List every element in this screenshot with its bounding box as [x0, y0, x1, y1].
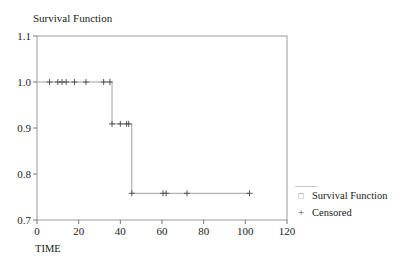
square-marker-icon: □ — [296, 191, 306, 201]
survival-plot: 0.70.80.91.01.1020406080100120 — [0, 0, 401, 265]
y-tick-label: 1.0 — [17, 76, 31, 88]
legend-item-censored: + Censored — [296, 206, 352, 218]
legend-label-censored: Censored — [312, 207, 352, 218]
y-tick-label: 0.8 — [17, 168, 31, 180]
x-tick-label: 120 — [279, 225, 296, 237]
survival-step-line — [37, 82, 250, 193]
x-tick-label: 20 — [73, 225, 85, 237]
x-tick-label: 0 — [34, 225, 40, 237]
y-tick-label: 0.7 — [17, 214, 31, 226]
x-axis-label: TIME — [35, 243, 61, 254]
plus-marker-icon: + — [296, 206, 306, 218]
x-tick-label: 60 — [157, 225, 169, 237]
legend-item-survival: □ Survival Function — [296, 190, 388, 201]
x-tick-label: 80 — [198, 225, 210, 237]
x-tick-label: 40 — [115, 225, 127, 237]
y-tick-label: 0.9 — [17, 122, 31, 134]
legend-label-survival: Survival Function — [312, 190, 388, 201]
y-tick-label: 1.1 — [17, 30, 31, 42]
x-tick-label: 100 — [237, 225, 254, 237]
legend-line — [295, 186, 317, 187]
